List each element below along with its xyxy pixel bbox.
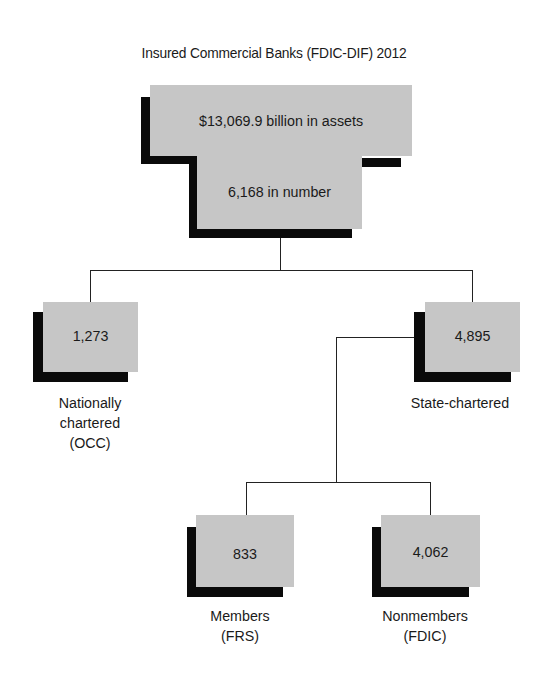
root-shadow-right-step xyxy=(362,158,401,167)
label-line: (FRS) xyxy=(176,626,305,646)
label-line: (FDIC) xyxy=(361,626,490,646)
label-line: State-chartered xyxy=(396,393,525,413)
label-line: Members xyxy=(176,606,305,626)
node-label: Nationally chartered (OCC) xyxy=(26,393,155,453)
connector-to-national xyxy=(90,270,91,302)
connector-root-down xyxy=(280,238,281,271)
connector-level1-horizontal xyxy=(90,270,473,271)
label-line: Nationally xyxy=(26,393,155,413)
connector-to-state xyxy=(472,270,473,302)
label-line: (OCC) xyxy=(26,433,155,453)
connector-level2-horizontal xyxy=(246,482,431,483)
connector-state-down xyxy=(336,337,337,483)
root-shadow-bottom xyxy=(189,228,352,238)
label-line: chartered xyxy=(26,413,155,433)
connector-state-left xyxy=(336,337,414,338)
connector-to-members xyxy=(246,482,247,515)
root-number-text: 6,168 in number xyxy=(204,183,356,201)
root-assets-text: $13,069.9 billion in assets xyxy=(160,112,401,130)
node-value: 833 xyxy=(200,545,290,563)
node-label: State-chartered xyxy=(396,393,525,413)
node-value: 1,273 xyxy=(47,327,134,345)
connector-to-nonmembers xyxy=(430,482,431,515)
node-label: Nonmembers (FDIC) xyxy=(361,606,490,646)
node-value: 4,062 xyxy=(385,543,476,561)
node-label: Members (FRS) xyxy=(176,606,305,646)
diagram-title: Insured Commercial Banks (FDIC-DIF) 2012 xyxy=(22,44,526,61)
label-line: Nonmembers xyxy=(361,606,490,626)
node-value: 4,895 xyxy=(429,327,516,345)
